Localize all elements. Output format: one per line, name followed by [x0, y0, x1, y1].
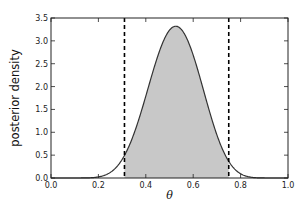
x-tick-label: 0.8 — [234, 181, 247, 190]
posterior-density-chart: 0.00.20.40.60.81.00.00.51.01.52.02.53.03… — [0, 0, 308, 212]
y-tick-label: 0.5 — [35, 151, 48, 160]
y-tick-label: 2.5 — [35, 60, 48, 69]
y-axis-label: posterior density — [8, 49, 22, 147]
y-tick-label: 2.0 — [35, 83, 48, 92]
y-tick-label: 1.0 — [35, 128, 48, 137]
y-tick-label: 3.5 — [35, 14, 48, 23]
x-tick-label: 0.2 — [92, 181, 105, 190]
y-tick-label: 3.0 — [35, 37, 48, 46]
credible-interval-fill — [124, 26, 228, 178]
y-tick-label: 1.5 — [35, 105, 48, 114]
x-axis-label: θ — [166, 189, 173, 202]
x-tick-label: 0.4 — [139, 181, 152, 190]
x-tick-label: 1.0 — [282, 181, 295, 190]
x-tick-label: 0.6 — [187, 181, 200, 190]
y-tick-label: 0.0 — [35, 174, 48, 183]
